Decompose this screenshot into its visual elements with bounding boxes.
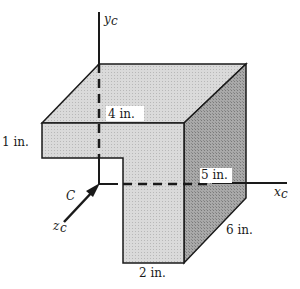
svg-text:x: x bbox=[274, 185, 281, 199]
dim-stem-width: 2 in. bbox=[139, 266, 166, 280]
svg-text:c: c bbox=[281, 187, 288, 201]
centroid-label: C bbox=[66, 189, 75, 203]
dim-flange-height: 1 in. bbox=[2, 135, 29, 149]
y-axis-label: y c bbox=[103, 12, 118, 28]
svg-text:y: y bbox=[103, 12, 111, 26]
z-axis-label: z c bbox=[52, 219, 67, 235]
front-face bbox=[42, 123, 184, 263]
svg-text:z: z bbox=[52, 219, 60, 233]
dim-top-thickness: 4 in. bbox=[108, 107, 135, 121]
dim-side-depth: 6 in. bbox=[226, 223, 253, 237]
svg-text:c: c bbox=[111, 14, 118, 28]
dim-depth: 5 in. bbox=[201, 168, 228, 182]
svg-text:c: c bbox=[60, 221, 67, 235]
x-axis-label: x c bbox=[274, 185, 288, 201]
l-shaped-solid-diagram: y c 4 in. 1 in. 5 in. x c C z c 6 in. 2 … bbox=[0, 0, 300, 289]
